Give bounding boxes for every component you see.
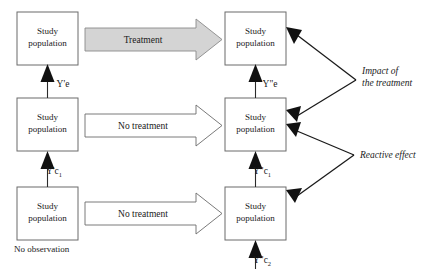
- connector-line-lower: [297, 155, 354, 196]
- box-label-line2: population: [236, 124, 275, 134]
- connector-line-lower: [297, 80, 356, 116]
- vertical-arrow-label-right-lower: Y"c2: [253, 255, 271, 267]
- annotation-impact-line2: the treatment: [362, 78, 412, 88]
- box-label-line2: population: [236, 213, 275, 223]
- connector-impact-of-treatment: Impact of the treatment: [286, 27, 412, 122]
- box-label-line1: Study: [37, 201, 59, 211]
- box-left-top: Study population: [17, 12, 78, 65]
- connector-line-upper: [297, 131, 354, 155]
- flow-arrow-label: No treatment: [118, 209, 168, 219]
- box-label-line2: population: [236, 38, 275, 48]
- vertical-arrow-right-middle: Y"c1: [249, 151, 272, 187]
- arrow-head-left-icon: [286, 188, 302, 203]
- box-label-line2: population: [28, 124, 67, 134]
- vertical-arrow-label-right-upper: Y"e: [263, 79, 278, 89]
- arrow-head-left-icon: [286, 122, 301, 137]
- box-label-line1: Study: [37, 112, 59, 122]
- flow-arrow-treatment: Treatment: [85, 19, 222, 60]
- flow-arrow-no-treatment-mid: No treatment: [85, 105, 222, 146]
- arrow-head-left-icon: [286, 106, 301, 122]
- box-label-line1: Study: [245, 26, 267, 36]
- box-right-top: Study population: [225, 12, 286, 65]
- vertical-arrow-left-lower: Y'c1: [41, 151, 63, 187]
- flow-arrow-no-treatment-bot: No treatment: [85, 193, 222, 234]
- study-design-diagram: Study population Study population Study …: [0, 0, 435, 269]
- vertical-arrow-right-upper: Y"e: [249, 64, 278, 98]
- arrow-head-left-icon: [286, 27, 302, 44]
- box-left-bottom: Study population: [17, 187, 78, 240]
- vertical-arrow-right-lower: Y"c2: [249, 240, 272, 269]
- arrow-head-up-icon: [41, 64, 55, 82]
- box-label-line1: Study: [245, 112, 267, 122]
- vertical-arrow-label-left-upper: Y'e: [57, 79, 70, 89]
- note-no-observation: No observation: [14, 244, 70, 254]
- box-left-middle: Study population: [17, 98, 78, 151]
- arrow-head-up-icon: [249, 64, 263, 82]
- vertical-arrow-label-left-lower: Y'c1: [46, 166, 62, 178]
- connector-line-upper: [297, 35, 356, 80]
- box-right-bottom: Study population: [225, 187, 286, 240]
- box-label-line2: population: [28, 213, 67, 223]
- box-right-middle: Study population: [225, 98, 286, 151]
- vertical-arrow-label-right-middle: Y"c1: [253, 166, 271, 178]
- box-label-line2: population: [28, 38, 67, 48]
- flow-arrow-label: Treatment: [124, 35, 163, 45]
- annotation-impact-line1: Impact of: [361, 66, 400, 76]
- annotation-reactive-line1: Reactive effect: [359, 150, 416, 160]
- vertical-arrow-left-upper: Y'e: [41, 64, 70, 98]
- box-label-line1: Study: [245, 201, 267, 211]
- flow-arrow-label: No treatment: [118, 121, 168, 131]
- box-label-line1: Study: [37, 26, 59, 36]
- connector-reactive-effect: Reactive effect: [286, 122, 416, 203]
